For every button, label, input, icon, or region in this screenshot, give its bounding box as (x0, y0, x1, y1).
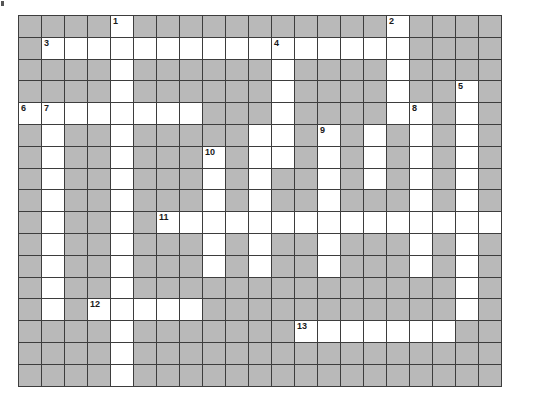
crossword-cell-open[interactable] (433, 321, 456, 343)
crossword-cell-open[interactable] (249, 168, 272, 190)
crossword-cell-open[interactable] (364, 212, 387, 234)
crossword-cell-open[interactable] (318, 146, 341, 168)
crossword-cell-open[interactable] (111, 59, 134, 81)
crossword-cell-open[interactable] (111, 321, 134, 343)
crossword-cell-open[interactable] (157, 37, 180, 59)
crossword-cell-open[interactable] (65, 37, 88, 59)
crossword-cell-open[interactable] (387, 321, 410, 343)
crossword-cell-open[interactable] (456, 146, 479, 168)
crossword-cell-open[interactable] (341, 321, 364, 343)
crossword-cell-open[interactable] (364, 146, 387, 168)
crossword-cell-open[interactable] (433, 212, 456, 234)
crossword-cell-open[interactable] (203, 168, 226, 190)
crossword-cell-open[interactable] (272, 81, 295, 103)
crossword-cell-open[interactable] (295, 212, 318, 234)
crossword-cell-open[interactable] (203, 255, 226, 277)
crossword-cell-open[interactable] (134, 37, 157, 59)
crossword-cell-open[interactable] (111, 190, 134, 212)
crossword-cell-open[interactable] (111, 342, 134, 364)
crossword-cell-open[interactable] (249, 233, 272, 255)
crossword-cell-open[interactable] (42, 299, 65, 321)
crossword-cell-open[interactable]: 6 (19, 103, 42, 125)
crossword-cell-open[interactable] (203, 212, 226, 234)
crossword-cell-open[interactable]: 2 (387, 16, 410, 38)
crossword-cell-open[interactable] (387, 212, 410, 234)
crossword-cell-open[interactable]: 4 (272, 37, 295, 59)
crossword-cell-open[interactable] (456, 103, 479, 125)
crossword-cell-open[interactable] (410, 146, 433, 168)
crossword-cell-open[interactable] (111, 212, 134, 234)
crossword-cell-open[interactable] (456, 233, 479, 255)
crossword-cell-open[interactable] (42, 146, 65, 168)
crossword-cell-open[interactable] (341, 212, 364, 234)
crossword-cell-open[interactable] (295, 37, 318, 59)
crossword-cell-open[interactable] (387, 103, 410, 125)
crossword-cell-open[interactable] (111, 146, 134, 168)
crossword-cell-open[interactable]: 9 (318, 124, 341, 146)
crossword-cell-open[interactable] (364, 124, 387, 146)
crossword-cell-open[interactable] (111, 299, 134, 321)
crossword-cell-open[interactable] (226, 37, 249, 59)
crossword-cell-open[interactable] (387, 59, 410, 81)
crossword-cell-open[interactable] (42, 124, 65, 146)
crossword-cell-open[interactable] (203, 37, 226, 59)
crossword-cell-open[interactable] (111, 277, 134, 299)
crossword-cell-open[interactable] (249, 212, 272, 234)
crossword-cell-open[interactable] (364, 168, 387, 190)
crossword-cell-open[interactable] (88, 37, 111, 59)
crossword-cell-open[interactable] (157, 299, 180, 321)
crossword-cell-open[interactable] (88, 103, 111, 125)
crossword-cell-open[interactable] (42, 277, 65, 299)
crossword-cell-open[interactable] (111, 103, 134, 125)
crossword-cell-open[interactable] (456, 212, 479, 234)
crossword-cell-open[interactable] (272, 124, 295, 146)
crossword-cell-open[interactable] (456, 190, 479, 212)
crossword-cell-open[interactable] (134, 103, 157, 125)
crossword-cell-open[interactable] (180, 37, 203, 59)
crossword-cell-open[interactable] (42, 168, 65, 190)
crossword-cell-open[interactable] (272, 146, 295, 168)
crossword-cell-open[interactable] (226, 212, 249, 234)
crossword-cell-open[interactable] (111, 81, 134, 103)
crossword-cell-open[interactable] (272, 59, 295, 81)
crossword-cell-open[interactable] (111, 364, 134, 386)
crossword-cell-open[interactable] (134, 299, 157, 321)
crossword-cell-open[interactable]: 12 (88, 299, 111, 321)
crossword-cell-open[interactable]: 1 (111, 16, 134, 38)
crossword-cell-open[interactable] (42, 255, 65, 277)
crossword-cell-open[interactable] (203, 190, 226, 212)
crossword-cell-open[interactable] (249, 124, 272, 146)
crossword-cell-open[interactable] (364, 321, 387, 343)
crossword-cell-open[interactable]: 8 (410, 103, 433, 125)
crossword-cell-open[interactable] (180, 299, 203, 321)
crossword-cell-open[interactable] (410, 168, 433, 190)
crossword-cell-open[interactable] (42, 233, 65, 255)
crossword-cell-open[interactable]: 3 (42, 37, 65, 59)
crossword-cell-open[interactable] (410, 233, 433, 255)
crossword-cell-open[interactable] (111, 37, 134, 59)
crossword-cell-open[interactable] (272, 212, 295, 234)
crossword-cell-open[interactable] (410, 321, 433, 343)
crossword-cell-open[interactable] (249, 37, 272, 59)
crossword-cell-open[interactable] (180, 103, 203, 125)
crossword-cell-open[interactable] (111, 168, 134, 190)
crossword-cell-open[interactable] (157, 103, 180, 125)
crossword-cell-open[interactable]: 5 (456, 81, 479, 103)
crossword-cell-open[interactable] (387, 37, 410, 59)
crossword-cell-open[interactable] (272, 103, 295, 125)
crossword-cell-open[interactable] (456, 299, 479, 321)
crossword-cell-open[interactable] (249, 146, 272, 168)
crossword-grid[interactable]: 12345678910111213 (18, 15, 502, 387)
crossword-cell-open[interactable] (318, 37, 341, 59)
crossword-cell-open[interactable]: 7 (42, 103, 65, 125)
crossword-cell-open[interactable] (410, 124, 433, 146)
crossword-cell-open[interactable] (65, 103, 88, 125)
crossword-cell-open[interactable] (341, 37, 364, 59)
crossword-cell-open[interactable] (364, 37, 387, 59)
crossword-cell-open[interactable] (410, 190, 433, 212)
crossword-cell-open[interactable] (318, 212, 341, 234)
crossword-cell-open[interactable] (456, 255, 479, 277)
crossword-cell-open[interactable] (111, 233, 134, 255)
crossword-cell-open[interactable] (203, 233, 226, 255)
crossword-cell-open[interactable]: 10 (203, 146, 226, 168)
